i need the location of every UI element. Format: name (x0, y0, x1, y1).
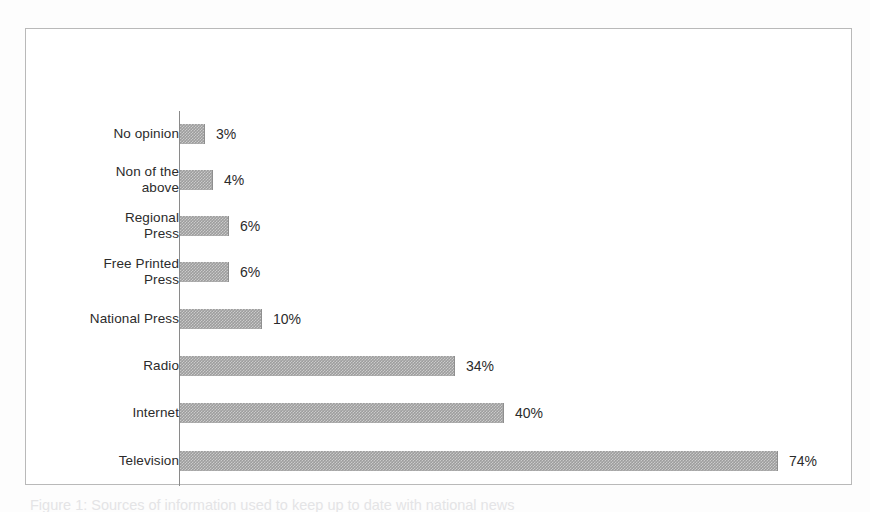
bar-value-label: 6% (240, 216, 260, 236)
bar (180, 403, 504, 423)
bar-category-label: National Press (31, 311, 179, 327)
bar-row: Regional Press 6% (26, 203, 853, 249)
plot-area: No opinion 3% Non of the above 4% Region… (26, 29, 853, 486)
bar-row: Internet 40% (26, 390, 853, 436)
bar (180, 262, 229, 282)
bar-category-label: Internet (31, 405, 179, 421)
bar-value-label: 6% (240, 262, 260, 282)
bar-category-label: Non of the above (31, 164, 179, 196)
bar-row: National Press 10% (26, 296, 853, 342)
bar-value-label: 10% (273, 309, 301, 329)
bar-category-label: Television (31, 453, 179, 469)
bar-wrapper: 3% (180, 124, 236, 144)
bar-category-label: Radio (31, 358, 179, 374)
bar-row: Non of the above 4% (26, 157, 853, 203)
bar-value-label: 34% (466, 356, 494, 376)
bar-value-label: 3% (216, 124, 236, 144)
bar-category-label: Regional Press (31, 210, 179, 242)
bar-wrapper: 4% (180, 170, 244, 190)
bar-value-label: 4% (224, 170, 244, 190)
bar-value-label: 74% (789, 451, 817, 471)
bar-wrapper: 34% (180, 356, 494, 376)
bar-value-label: 40% (515, 403, 543, 423)
bar (180, 309, 262, 329)
bar-category-label: Free Printed Press (31, 256, 179, 288)
bar (180, 124, 205, 144)
scanned-page: No opinion 3% Non of the above 4% Region… (0, 0, 870, 512)
bar (180, 216, 229, 236)
bar-wrapper: 74% (180, 451, 817, 471)
bar-row: No opinion 3% (26, 111, 853, 157)
chart-frame: No opinion 3% Non of the above 4% Region… (25, 28, 852, 485)
bar-wrapper: 10% (180, 309, 301, 329)
bar-category-label: No opinion (31, 126, 179, 142)
bar (180, 356, 455, 376)
bar-wrapper: 40% (180, 403, 543, 423)
bar-wrapper: 6% (180, 216, 260, 236)
bar-row: Radio 34% (26, 343, 853, 389)
bar-wrapper: 6% (180, 262, 260, 282)
bar-row: Television 74% (26, 438, 853, 484)
bar-row: Free Printed Press 6% (26, 249, 853, 295)
bar (180, 451, 778, 471)
bar (180, 170, 213, 190)
figure-caption: Figure 1: Sources of information used to… (30, 497, 840, 512)
